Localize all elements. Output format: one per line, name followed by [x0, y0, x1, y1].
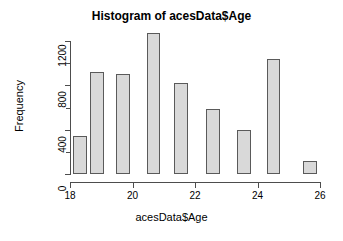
x-tick-18 — [70, 182, 71, 188]
chart-title: Histogram of acesData$Age — [0, 9, 343, 23]
y-axis-label: Frequency — [13, 71, 25, 141]
x-tick-label-18: 18 — [55, 190, 85, 201]
histogram-bar — [237, 130, 251, 174]
y-tick-minor-200 — [66, 152, 71, 153]
histogram-bar — [174, 83, 188, 174]
histogram-bar — [303, 161, 317, 174]
x-tick-24 — [258, 182, 259, 188]
x-tick-22 — [195, 182, 196, 188]
x-tick-20 — [133, 182, 134, 188]
histogram-bar — [90, 72, 104, 174]
histogram-bar — [267, 59, 281, 174]
histogram-bar — [147, 33, 161, 174]
y-tick-minor-600 — [66, 108, 71, 109]
x-axis-label: acesData$Age — [0, 211, 343, 223]
x-tick-26 — [320, 182, 321, 188]
x-tick-label-24: 24 — [243, 190, 273, 201]
y-tick-label-400: 400 — [57, 129, 68, 159]
x-tick-label-20: 20 — [118, 190, 148, 201]
y-tick-label-800: 800 — [57, 85, 68, 115]
histogram-bar — [116, 74, 130, 174]
x-tick-label-22: 22 — [180, 190, 210, 201]
histogram-plot: Histogram of acesData$Age Frequency aces… — [0, 0, 343, 241]
y-tick-minor-1000 — [66, 63, 71, 64]
histogram-bar — [73, 136, 87, 174]
histogram-bar — [206, 109, 220, 174]
x-tick-label-26: 26 — [305, 190, 335, 201]
y-tick-label-1200: 1200 — [57, 41, 68, 71]
